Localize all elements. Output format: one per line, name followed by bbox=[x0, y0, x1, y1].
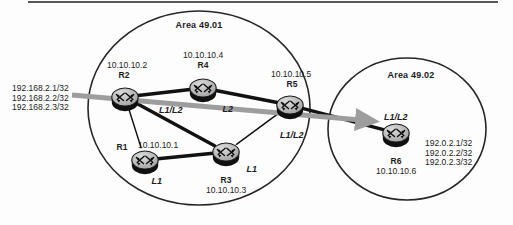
router-ip-R2: 10.10.10.2 bbox=[107, 61, 147, 71]
area-label-area-49-01: Area 49.01 bbox=[176, 20, 223, 30]
prefix-line: 192.0.2.3/32 bbox=[425, 158, 472, 168]
router-node-R2[interactable] bbox=[112, 88, 138, 111]
router-level-R1: L1 bbox=[152, 176, 163, 186]
router-name-R4: R4 bbox=[198, 61, 209, 71]
prefix-block-left-prefixes: 192.168.2.1/32192.168.2.2/32192.168.2.3/… bbox=[12, 84, 69, 113]
area-label-area-49-02: Area 49.02 bbox=[388, 70, 435, 80]
link-R2-R4 bbox=[138, 89, 190, 95]
link-R3-R5 bbox=[236, 113, 279, 145]
router-name-R1: R1 bbox=[117, 143, 128, 153]
router-name-R5: R5 bbox=[287, 80, 298, 90]
diagram-canvas: Area 49.01Area 49.02R110.10.10.1L1R210.1… bbox=[0, 0, 513, 225]
link-R1-R3 bbox=[158, 153, 213, 158]
router-ip-R4: 10.10.10.4 bbox=[183, 51, 223, 61]
router-ip-R3: 10.10.10.3 bbox=[206, 186, 246, 196]
router-ip-R1: 10.10.10.1 bbox=[138, 141, 178, 151]
router-node-R3[interactable] bbox=[213, 143, 239, 166]
link-R4-R5 bbox=[216, 90, 277, 102]
router-level-R6: L1/L2 bbox=[384, 112, 408, 122]
prefix-block-right-prefixes: 192.0.2.1/32192.0.2.2/32192.0.2.3/32 bbox=[425, 139, 472, 168]
router-node-R5[interactable] bbox=[277, 96, 303, 119]
router-level-R4: L2 bbox=[223, 104, 234, 114]
router-node-R4[interactable] bbox=[190, 79, 216, 102]
router-level-R2: L1/L2 bbox=[159, 105, 183, 115]
topology-svg bbox=[0, 0, 513, 225]
prefix-line: 192.168.2.3/32 bbox=[12, 103, 69, 113]
router-node-R6[interactable] bbox=[383, 124, 409, 147]
router-node-R1[interactable] bbox=[132, 151, 158, 174]
router-name-R2: R2 bbox=[119, 71, 130, 81]
router-ip-R5: 10.10.10.5 bbox=[271, 70, 311, 80]
router-level-R5: L1/L2 bbox=[280, 130, 304, 140]
router-level-R3: L1 bbox=[247, 164, 258, 174]
router-ip-R6: 10.10.10.6 bbox=[376, 167, 416, 177]
